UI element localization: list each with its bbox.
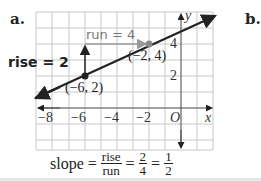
bottom-border (0, 178, 261, 181)
point-neg2-4 (146, 41, 153, 48)
y-axis-label: y (185, 8, 191, 24)
frac-num: 2 (139, 150, 148, 164)
point-label-2: (−2, 4) (128, 48, 166, 64)
point-neg6-2 (82, 73, 89, 80)
rise-label: rise = 2 (8, 54, 69, 70)
x-tick-neg6: −6 (71, 110, 86, 126)
frac-num: rise (101, 150, 122, 164)
run-label: run = 4 (86, 27, 135, 42)
formula-prefix: slope = (50, 155, 97, 173)
frac-num: 1 (164, 150, 173, 164)
fraction-rise-run: riserun (101, 150, 122, 177)
y-tick-4: 4 (170, 36, 177, 52)
point-label-1: (−6, 2) (65, 80, 103, 96)
frac-den: 4 (140, 164, 147, 177)
equals-sign: = (151, 155, 160, 173)
fraction-1-2: 12 (164, 150, 173, 177)
frac-den: 2 (165, 164, 172, 177)
equals-sign: = (126, 155, 135, 173)
y-tick-2: 2 (170, 68, 177, 84)
origin-label: O (170, 110, 180, 126)
x-tick-neg2: −2 (136, 110, 151, 126)
x-tick-neg4: −4 (104, 110, 119, 126)
x-axis-label: x (205, 110, 211, 126)
x-tick-neg8: −8 (38, 110, 53, 126)
slope-formula: slope = riserun = 24 = 12 (50, 150, 173, 177)
frac-den: run (103, 164, 120, 177)
fraction-2-4: 24 (139, 150, 148, 177)
